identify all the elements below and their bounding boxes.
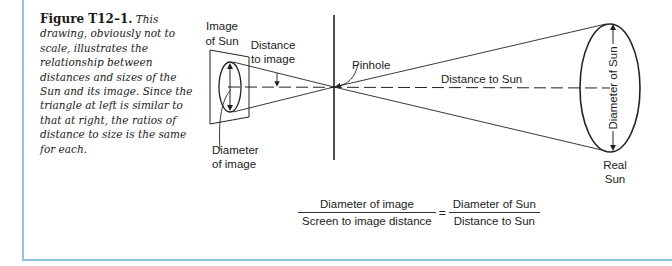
left-fraction: Diameter of image Screen to image distan… — [300, 198, 434, 227]
right-fraction: Diameter of Sun Distance to Sun — [451, 198, 538, 227]
label-pinhole: Pinhole — [352, 59, 390, 71]
label-distance-to-image-1: Distance — [251, 39, 296, 51]
label-image-of-sun-2: of Sun — [205, 35, 238, 47]
label-real-sun-2: Sun — [605, 173, 625, 185]
left-numerator: Diameter of image — [298, 198, 436, 213]
diameter-of-image-leader — [219, 90, 231, 150]
label-distance-to-sun: Distance to Sun — [441, 73, 522, 85]
label-image-of-sun-1: Image — [206, 20, 238, 32]
label-diameter-of-sun: Diameter of Sun — [607, 46, 619, 129]
equals-sign: = — [439, 206, 446, 220]
center-axis — [228, 87, 610, 88]
right-denominator: Distance to Sun — [452, 213, 537, 227]
left-denominator: Screen to image distance — [300, 213, 434, 227]
ratio-formula: Diameter of image Screen to image distan… — [300, 198, 538, 227]
label-diameter-of-image-1: Diameter — [212, 144, 259, 156]
label-distance-to-image-2: to image — [251, 53, 295, 65]
label-diameter-of-image-2: of image — [212, 158, 256, 170]
right-numerator: Diameter of Sun — [449, 198, 540, 213]
label-real-sun-1: Real — [603, 159, 627, 171]
